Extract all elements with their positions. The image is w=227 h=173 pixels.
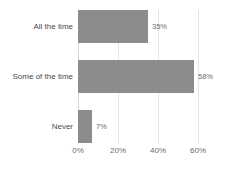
x-tick-40: 40% — [150, 147, 166, 155]
category-label-all-the-time: All the time — [0, 10, 73, 43]
plot-area: 35% 58% 7% — [78, 10, 218, 143]
bar-value-never: 7% — [96, 123, 107, 131]
x-tick-0: 0% — [72, 147, 84, 155]
x-tick-20: 20% — [110, 147, 126, 155]
bar-value-some-of-the-time: 58% — [198, 73, 213, 81]
bar-all-the-time — [78, 10, 148, 43]
category-label-never: Never — [0, 110, 73, 143]
bar-chart: All the time Some of the time Never 35% … — [0, 0, 227, 173]
bar-row: 58% — [78, 60, 213, 93]
category-label-some-of-the-time: Some of the time — [0, 60, 73, 93]
bar-row: 7% — [78, 110, 107, 143]
bar-never — [78, 110, 92, 143]
bar-value-all-the-time: 35% — [152, 23, 167, 31]
x-tick-60: 60% — [190, 147, 206, 155]
bar-some-of-the-time — [78, 60, 194, 93]
x-axis-tick-labels: 0% 20% 40% 60% — [78, 147, 218, 161]
bar-row: 35% — [78, 10, 167, 43]
